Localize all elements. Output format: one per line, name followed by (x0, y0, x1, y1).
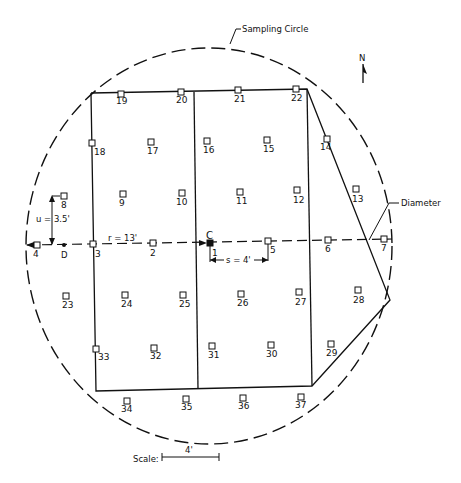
sample-point: 29 (326, 341, 338, 358)
sample-point: 37 (295, 394, 306, 410)
sample-point: 7 (381, 236, 387, 253)
sample-point-marker (150, 240, 156, 246)
sample-point-label: 27 (295, 297, 306, 307)
sample-point-marker (180, 292, 186, 298)
sample-point-label: 35 (181, 402, 192, 412)
sampling-circle-leader (230, 29, 241, 44)
sample-point: 10 (176, 190, 188, 207)
center-label: C (206, 230, 213, 241)
sample-point-label: 12 (293, 195, 304, 205)
sample-point: 31 (208, 343, 219, 360)
sample-point-label: 6 (325, 244, 331, 254)
sample-point: 28 (353, 287, 365, 305)
sample-point-marker (120, 191, 126, 197)
sample-point: 2 (150, 240, 156, 258)
sample-point-marker (238, 291, 244, 297)
sample-point-marker (353, 186, 359, 192)
sample-point-marker (293, 86, 299, 92)
u-arrow-down-icon (49, 238, 55, 245)
sample-point-label: 29 (326, 348, 338, 358)
sample-point-label: 3 (95, 249, 101, 259)
point-d-label: D (61, 250, 68, 260)
sample-point-label: 31 (208, 350, 219, 360)
diameter-label: Diameter (401, 198, 441, 208)
sample-point-label: 2 (150, 248, 156, 258)
sample-point-label: 18 (94, 147, 106, 157)
sample-point-label: 5 (270, 245, 276, 255)
sample-point-label: 37 (295, 400, 306, 410)
sample-point-marker (204, 138, 210, 144)
sample-point: 34 (121, 398, 133, 414)
sample-point-marker (63, 293, 69, 299)
s-label: s = 4' (226, 255, 251, 265)
sample-point-label: 21 (234, 94, 245, 104)
sample-point-label: 11 (236, 196, 247, 206)
sample-point: 1 (207, 240, 218, 258)
sample-point-marker (264, 137, 270, 143)
sample-point-label: 1 (212, 248, 218, 258)
sample-point-marker (325, 237, 331, 243)
sample-point-label: 34 (121, 404, 133, 414)
s-arrow-right-icon (262, 257, 268, 263)
sample-point-label: 16 (203, 145, 215, 155)
sample-point-label: 19 (116, 96, 128, 106)
sample-point: 11 (236, 189, 247, 206)
sample-point-label: 10 (176, 197, 188, 207)
sample-point: 15 (263, 137, 274, 154)
sample-point: 6 (325, 237, 331, 254)
sample-point-label: 17 (147, 146, 158, 156)
scale-value: 4' (185, 445, 193, 455)
sample-point-marker (355, 287, 361, 293)
r-label: r = 13' (108, 233, 137, 243)
north-arrow: N (359, 53, 367, 83)
sample-point-marker (90, 241, 96, 247)
sample-point-label: 33 (98, 352, 109, 362)
sampling-circle-label: Sampling Circle (242, 24, 308, 34)
sample-point: 25 (179, 292, 190, 309)
sample-point: 24 (121, 292, 133, 309)
sample-point-label: 30 (266, 349, 278, 359)
sample-point-marker (209, 343, 215, 349)
sample-point: 17 (147, 139, 158, 156)
sample-point: 3 (90, 241, 101, 259)
sample-point-marker (381, 236, 387, 242)
sample-point-marker (179, 190, 185, 196)
sample-point-marker (268, 342, 274, 348)
sample-point-label: 32 (150, 351, 161, 361)
sample-point-marker (89, 140, 95, 146)
sample-point: 26 (237, 291, 249, 308)
sample-point-marker (61, 193, 67, 199)
sample-point-label: 15 (263, 144, 274, 154)
sample-point: 13 (352, 186, 363, 204)
diameter-leader (369, 203, 399, 240)
sample-point-label: 28 (353, 295, 365, 305)
sample-point-label: 9 (119, 198, 125, 208)
sample-point-marker (294, 187, 300, 193)
sample-point: 30 (266, 342, 278, 359)
sample-point: 23 (62, 293, 73, 310)
sample-point: 35 (181, 396, 192, 412)
sample-point-marker (237, 189, 243, 195)
sample-point-marker (328, 341, 334, 347)
sample-point-label: 14 (320, 142, 332, 152)
sample-point: 9 (119, 191, 126, 208)
sample-point-label: 26 (237, 298, 249, 308)
sample-point-label: 7 (381, 243, 387, 253)
sample-point-label: 24 (121, 299, 133, 309)
sample-point: 14 (320, 136, 332, 152)
sample-point: 36 (238, 395, 250, 411)
sample-point: 32 (150, 345, 161, 361)
north-label: N (359, 53, 365, 63)
sample-point-label: 22 (291, 93, 302, 103)
point-d-marker (62, 243, 66, 247)
sample-point-marker (122, 292, 128, 298)
sampling-diagram: D u = 3.5' r = 13' C s = 4' Sampling Cir… (0, 0, 461, 483)
sample-point-label: 4 (33, 249, 39, 259)
sample-point: 12 (293, 187, 304, 205)
sample-point-label: 36 (238, 401, 250, 411)
arrow-left-icon (26, 242, 34, 248)
sample-point: 8 (61, 193, 67, 210)
sample-point: 4 (33, 242, 40, 259)
sample-point-label: 13 (352, 194, 363, 204)
u-label: u = 3.5' (36, 214, 70, 224)
